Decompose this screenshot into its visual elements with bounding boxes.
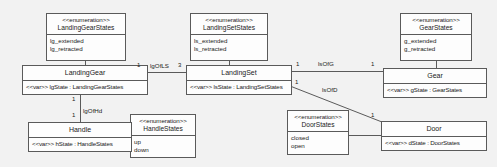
enumeration-landing-gear-states-literals: lg_extended lg_retracted <box>47 34 125 64</box>
association-lg-of-hd-source-multiplicity: 1 <box>72 96 75 102</box>
association-ls-of-g-label: lsOfG <box>318 60 334 67</box>
association-lg-of-ls-label: lgOfLS <box>150 62 169 69</box>
association-ls-of-d-label: lsOfD <box>322 86 337 93</box>
enumeration-landing-gear-states[interactable]: <<enumeration>> LandingGearStates lg_ext… <box>46 13 126 61</box>
association-ls-of-g-target-multiplicity: 1 <box>371 61 374 67</box>
enum-literal: closed <box>291 134 345 142</box>
uml-class-diagram-canvas: <<enumeration>> LandingGearStates lg_ext… <box>0 0 497 167</box>
association-lg-of-ls-target-multiplicity: 3 <box>178 62 181 68</box>
enumeration-door-states[interactable]: <<enumeration>> DoorStates closed open <box>287 110 349 155</box>
stereotype-label: <<enumeration>> <box>49 17 123 24</box>
enumeration-landing-set-states[interactable]: <<enumeration>> LandingSetStates ls_exte… <box>190 13 268 61</box>
enum-literal: g_retracted <box>404 45 468 53</box>
class-landing-set-attributes: <<var>> lsState : LandingSetStates <box>187 80 291 99</box>
enumeration-name: GearStates <box>403 24 469 31</box>
enum-literal: lg_retracted <box>50 45 122 53</box>
class-gear[interactable]: Gear <<var>> gState : GearStates <box>383 68 487 98</box>
enumeration-landing-set-states-title: <<enumeration>> LandingSetStates <box>191 14 267 34</box>
class-gear-attributes: <<var>> gState : GearStates <box>384 83 486 102</box>
stereotype-label: <<enumeration>> <box>290 114 346 121</box>
enum-literal: down <box>134 146 192 154</box>
association-lg-of-hd-label: lgOfHd <box>83 107 102 114</box>
enumeration-landing-set-states-literals: ls_extended ls_retracted <box>191 34 267 64</box>
association-lg-of-hd-line <box>80 95 81 122</box>
class-door-attributes: <<var>> dState : DoorStates <box>382 136 486 155</box>
stereotype-label: <<enumeration>> <box>403 17 469 24</box>
association-ls-of-d-target-multiplicity: 1 <box>371 112 374 118</box>
class-attribute: <<var>> lsState : LandingSetStates <box>190 83 288 91</box>
association-lg-of-hd-target-multiplicity: 1 <box>72 112 75 118</box>
enumeration-name: DoorStates <box>290 121 346 128</box>
association-ls-of-d-source-multiplicity: 1 <box>295 79 298 85</box>
association-lg-of-ls-source-multiplicity: 1 <box>137 62 140 68</box>
class-landing-gear-name: LandingGear <box>23 66 147 80</box>
enum-literal: ls_extended <box>194 37 264 45</box>
enum-literal: open <box>291 142 345 150</box>
class-landing-gear-attributes: <<var>> lgState : LandingGearStates <box>23 80 147 99</box>
enumeration-name: LandingGearStates <box>49 24 123 31</box>
enumeration-gear-states-title: <<enumeration>> GearStates <box>401 14 471 34</box>
enumeration-gear-states[interactable]: <<enumeration>> GearStates g_extended g_… <box>400 13 472 61</box>
class-landing-set[interactable]: LandingSet <<var>> lsState : LandingSetS… <box>186 65 292 95</box>
class-attribute: <<var>> hState : HandleStates <box>32 140 128 148</box>
class-handle[interactable]: Handle <<var>> hState : HandleStates <box>28 122 132 152</box>
enumeration-handle-states-title: <<enumeration>> HandleStates <box>131 115 195 135</box>
enumeration-gear-states-literals: g_extended g_retracted <box>401 34 471 64</box>
class-door-name: Door <box>382 122 486 136</box>
enumeration-name: HandleStates <box>133 125 193 132</box>
class-attribute: <<var>> gState : GearStates <box>387 86 483 94</box>
association-lg-of-ls-line <box>148 72 186 73</box>
enum-literal: lg_extended <box>50 37 122 45</box>
association-ls-of-g-line <box>292 71 383 72</box>
association-ls-of-g-source-multiplicity: 1 <box>296 61 299 67</box>
class-landing-set-name: LandingSet <box>187 66 291 80</box>
class-handle-name: Handle <box>29 123 131 137</box>
enumeration-handle-states-literals: up down <box>131 135 195 162</box>
enumeration-name: LandingSetStates <box>193 24 265 31</box>
enumeration-door-states-title: <<enumeration>> DoorStates <box>288 111 348 131</box>
class-attribute: <<var>> dState : DoorStates <box>385 139 483 147</box>
enumeration-door-states-literals: closed open <box>288 131 348 158</box>
enumeration-handle-states[interactable]: <<enumeration>> HandleStates up down <box>130 114 196 158</box>
enumeration-landing-gear-states-title: <<enumeration>> LandingGearStates <box>47 14 125 34</box>
stereotype-label: <<enumeration>> <box>133 118 193 125</box>
enum-literal: ls_retracted <box>194 45 264 53</box>
connector-door-to-states <box>349 135 381 136</box>
class-gear-name: Gear <box>384 69 486 83</box>
class-door[interactable]: Door <<var>> dState : DoorStates <box>381 121 487 151</box>
class-attribute: <<var>> lgState : LandingGearStates <box>26 83 144 91</box>
enum-literal: g_extended <box>404 37 468 45</box>
enum-literal: up <box>134 138 192 146</box>
class-landing-gear[interactable]: LandingGear <<var>> lgState : LandingGea… <box>22 65 148 95</box>
stereotype-label: <<enumeration>> <box>193 17 265 24</box>
class-handle-attributes: <<var>> hState : HandleStates <box>29 137 131 156</box>
